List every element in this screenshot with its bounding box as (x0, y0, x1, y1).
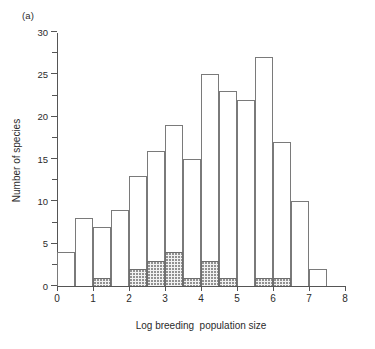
x-tick (345, 286, 346, 291)
y-tick-minor (52, 52, 57, 53)
plot-area: 051015202530 012345678 (57, 33, 345, 287)
histogram-bar (273, 142, 291, 286)
histogram-bar (111, 210, 129, 286)
y-tick-label: 25 (37, 70, 48, 80)
x-tick-label: 2 (126, 294, 132, 304)
histogram-bar-shaded-segment (147, 261, 165, 286)
histogram-bar (75, 218, 93, 286)
x-tick-label: 5 (234, 294, 240, 304)
x-tick (309, 286, 310, 291)
y-tick-minor (52, 137, 57, 138)
x-tick-label: 6 (270, 294, 276, 304)
histogram-bar (183, 159, 201, 286)
histogram-bar (255, 57, 273, 286)
histogram-bar (129, 176, 147, 286)
y-tick-label: 10 (37, 197, 48, 207)
y-tick-minor (52, 222, 57, 223)
x-tick (237, 286, 238, 291)
x-tick-label: 8 (342, 294, 348, 304)
y-tick-label: 15 (37, 154, 48, 164)
y-tick (51, 73, 57, 74)
histogram-bar (201, 74, 219, 286)
y-tick-minor (52, 95, 57, 96)
histogram-bar-shaded-segment (183, 278, 201, 286)
x-tick (165, 286, 166, 291)
histogram-bar-shaded-segment (129, 269, 147, 286)
y-tick (51, 31, 57, 32)
x-axis-title: Log breeding population size (57, 320, 345, 331)
y-tick-label: 0 (43, 281, 48, 291)
y-tick-minor (52, 179, 57, 180)
histogram-bar-shaded-segment (273, 278, 291, 286)
x-tick (201, 286, 202, 291)
x-tick-label: 4 (198, 294, 204, 304)
panel-label: (a) (22, 10, 34, 21)
y-axis-title-text: Number of species (12, 118, 23, 201)
y-tick (51, 243, 57, 244)
y-tick-label: 20 (37, 112, 48, 122)
x-tick (57, 286, 58, 291)
histogram-bar (147, 151, 165, 286)
y-tick-label: 30 (37, 27, 48, 37)
histogram-bar (57, 252, 75, 286)
histogram-bar (93, 227, 111, 286)
histogram-bar-shaded-segment (165, 252, 183, 286)
histogram-bar (165, 125, 183, 286)
y-axis-title: Number of species (10, 33, 24, 287)
figure-panel: (a) Number of species 051015202530 01234… (0, 0, 375, 349)
y-tick (51, 200, 57, 201)
x-tick-label: 7 (306, 294, 312, 304)
x-tick (129, 286, 130, 291)
x-tick-label: 1 (90, 294, 96, 304)
histogram-bar-shaded-segment (219, 278, 237, 286)
histogram-bar (237, 100, 255, 286)
y-tick (51, 116, 57, 117)
histogram-bar-shaded-segment (201, 261, 219, 286)
x-tick (93, 286, 94, 291)
x-tick-label: 3 (162, 294, 168, 304)
histogram-bar (291, 201, 309, 286)
y-axis-line (57, 33, 58, 287)
y-tick (51, 158, 57, 159)
x-tick-label: 0 (54, 294, 60, 304)
histogram-bar-shaded-segment (93, 278, 111, 286)
histogram-bar (219, 91, 237, 286)
x-tick (273, 286, 274, 291)
y-tick-label: 5 (43, 239, 48, 249)
histogram-bar (309, 269, 327, 286)
histogram-bar-shaded-segment (255, 278, 273, 286)
